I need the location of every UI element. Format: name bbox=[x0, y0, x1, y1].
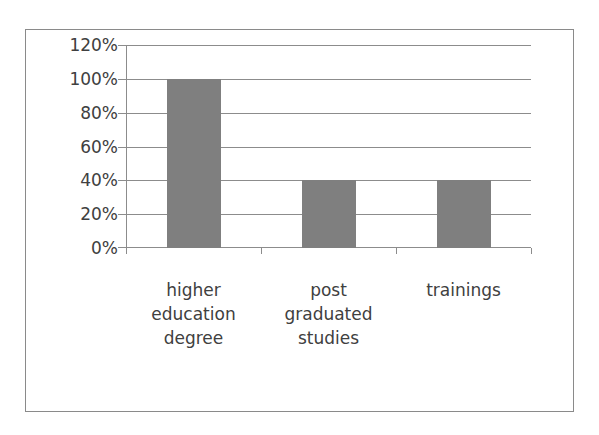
y-tick-label: 80% bbox=[38, 103, 118, 123]
y-tick-label: 0% bbox=[38, 238, 118, 258]
x-tick bbox=[126, 248, 127, 254]
x-category-label: trainings bbox=[399, 278, 529, 302]
bar-post-graduated-studies bbox=[302, 180, 356, 248]
x-tick bbox=[261, 248, 262, 254]
y-tick-label: 20% bbox=[38, 204, 118, 224]
y-tick-label: 40% bbox=[38, 170, 118, 190]
x-tick bbox=[531, 248, 532, 254]
bar-trainings bbox=[437, 180, 491, 248]
y-tick-label: 100% bbox=[38, 69, 118, 89]
bar-higher-education-degree bbox=[167, 79, 221, 248]
y-axis-line bbox=[126, 45, 127, 254]
x-category-label: higher education degree bbox=[129, 278, 259, 350]
x-category-label: post graduated studies bbox=[264, 278, 394, 350]
x-tick bbox=[396, 248, 397, 254]
y-tick-label: 60% bbox=[38, 137, 118, 157]
plot-area bbox=[126, 45, 531, 248]
gridline bbox=[118, 45, 531, 46]
y-tick-label: 120% bbox=[38, 35, 118, 55]
